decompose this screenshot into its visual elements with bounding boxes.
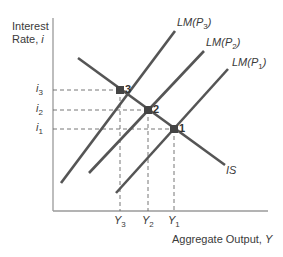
y-axis-label-line1: Interest bbox=[12, 20, 49, 33]
y-axis-label-line2: Rate, bbox=[12, 33, 41, 45]
y-tick-label-i2: i2 bbox=[36, 102, 43, 116]
x-tick-label-y3: Y3 bbox=[114, 214, 126, 228]
curve-label-lmp2: LM(P2) bbox=[206, 36, 240, 50]
curve-label-lmp1: LM(P1) bbox=[232, 56, 266, 70]
x-axis-label-text: Aggregate Output, bbox=[172, 233, 265, 245]
is-lm-diagram: Interest Rate, i i3i2i1 Y3Y2Y1 Aggregate… bbox=[0, 0, 283, 257]
curve-label-is: IS bbox=[226, 164, 236, 177]
y-tick-label-i3: i3 bbox=[36, 82, 43, 96]
y-tick-label-i1: i1 bbox=[36, 121, 43, 135]
y-axis-label: Interest Rate, i bbox=[12, 20, 49, 46]
equilibrium-label-3: 3 bbox=[125, 84, 131, 95]
x-axis-label-var: Y bbox=[265, 233, 272, 245]
x-tick-label-y1: Y1 bbox=[168, 214, 180, 228]
x-axis-label: Aggregate Output, Y bbox=[172, 233, 272, 246]
equilibrium-point-3 bbox=[116, 86, 124, 94]
y-axis-label-var: i bbox=[41, 33, 43, 45]
equilibrium-label-2: 2 bbox=[153, 104, 159, 115]
equilibrium-point-2 bbox=[144, 106, 152, 114]
curve-label-lmp3: LM(P3) bbox=[177, 16, 211, 30]
equilibrium-point-1 bbox=[170, 125, 178, 133]
equilibrium-label-1: 1 bbox=[179, 123, 185, 134]
x-tick-label-y2: Y2 bbox=[142, 214, 154, 228]
